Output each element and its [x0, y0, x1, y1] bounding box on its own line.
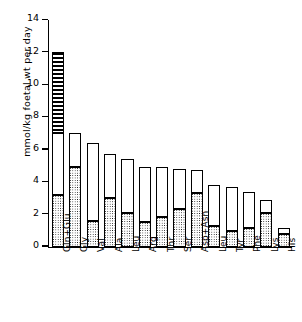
y-axis-tick-label: 0: [33, 239, 39, 250]
bar: [156, 167, 168, 246]
bar-segment-upper-segment: [104, 154, 116, 198]
y-axis-tick-label: 2: [33, 207, 39, 218]
y-axis-tick-label: 10: [27, 77, 39, 88]
y-axis-tick: 6: [42, 148, 48, 149]
bar: [104, 154, 116, 246]
y-axis-tick: 0: [42, 245, 48, 246]
y-axis-tick: 14: [42, 19, 48, 20]
bar-segment-upper-segment: [173, 169, 185, 209]
bar-segment-upper-segment: [260, 200, 272, 213]
plot-area: 02468101214: [48, 20, 292, 248]
bar-segment-upper-segment: [191, 170, 203, 193]
x-axis-tick-label: Leu: [131, 236, 141, 252]
y-axis-tick-label: 8: [33, 109, 39, 120]
bar-group: [49, 20, 292, 247]
y-axis-tick-label: 14: [27, 12, 39, 23]
y-axis-tick-label: 6: [33, 142, 39, 153]
y-axis-tick: 12: [42, 51, 48, 52]
bar-segment-upper-segment: [243, 192, 255, 228]
x-axis-tick-label: Val: [96, 238, 106, 252]
bar: [139, 167, 151, 247]
x-axis-tick-label: Gly: [79, 237, 89, 252]
x-axis-tick-label: Ser: [183, 237, 193, 252]
x-axis-tick-label: Tyr: [235, 239, 245, 252]
bar-chart-figure: mmol/kg foetal wt per day 02468101214 Gl…: [0, 0, 302, 322]
y-axis-tick: 10: [42, 84, 48, 85]
bar-segment-upper-segment: [121, 159, 133, 212]
x-axis-tick-label: His: [287, 238, 297, 252]
x-axis-tick-label: Phe: [252, 235, 262, 252]
y-axis-tick: 4: [42, 181, 48, 182]
x-axis-tick-label: Lys: [270, 237, 280, 252]
y-axis-tick: 2: [42, 213, 48, 214]
x-axis-tick-label: Thr: [166, 237, 176, 252]
y-axis-title: mmol/kg foetal wt per day: [21, 0, 32, 192]
bar-segment-upper-segment: [69, 133, 81, 166]
bar-segment-upper-segment: [278, 228, 290, 234]
y-axis-tick: 8: [42, 116, 48, 117]
y-axis-tick-label: 12: [27, 45, 39, 56]
bar-segment-upper-segment: [52, 133, 64, 195]
bar-segment-upper-segment: [139, 167, 151, 222]
bar: [173, 169, 185, 247]
bar: [87, 143, 99, 247]
x-axis-tick-label: Arg: [148, 236, 158, 252]
bar-segment-upper-segment: [226, 187, 238, 232]
bar-segment-top-segment: [52, 52, 64, 133]
bar: [121, 159, 133, 246]
x-axis-tick-label: Leu: [218, 236, 228, 252]
bar-segment-upper-segment: [87, 143, 99, 221]
x-axis-tick-label: Ala: [114, 238, 124, 252]
y-axis-tick-label: 4: [33, 174, 39, 185]
x-axis-tick-label: Asp+Asn: [200, 211, 210, 252]
bar-segment-upper-segment: [156, 167, 168, 217]
x-axis-tick-label: Gln+Glu: [62, 213, 72, 252]
